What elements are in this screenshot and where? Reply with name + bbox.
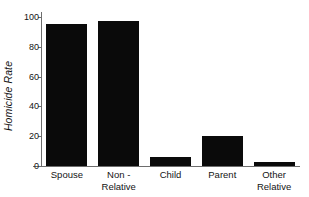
y-tick-label: 20 xyxy=(29,132,39,141)
x-label-line: Relative xyxy=(248,181,300,193)
x-axis-line xyxy=(33,166,300,167)
homicide-rate-bar-chart: Homicide Rate 020406080100 SpouseNon -Re… xyxy=(0,0,309,197)
x-label-child: Child xyxy=(145,169,197,181)
bars-layer xyxy=(41,8,300,166)
bar-other-relative xyxy=(254,162,295,166)
y-tick-label: 100 xyxy=(24,13,39,22)
y-tick-label: 0 xyxy=(34,162,39,171)
bar-non-relative xyxy=(98,21,139,166)
x-label-non-relative: Non -Relative xyxy=(93,169,145,192)
x-label-line: Child xyxy=(160,169,182,180)
y-axis-title-text: Homicide Rate xyxy=(2,61,14,131)
y-axis-title: Homicide Rate xyxy=(0,46,16,146)
x-label-other-relative: OtherRelative xyxy=(248,169,300,192)
bar-parent xyxy=(202,136,243,166)
x-label-line: Relative xyxy=(93,181,145,193)
x-label-parent: Parent xyxy=(196,169,248,181)
x-axis-labels: SpouseNon -RelativeChildParentOtherRelat… xyxy=(41,169,300,197)
x-label-line: Spouse xyxy=(51,169,83,180)
x-label-line: Other xyxy=(262,169,286,180)
x-label-spouse: Spouse xyxy=(41,169,93,181)
y-tick-label: 80 xyxy=(29,42,39,51)
y-tick-label: 40 xyxy=(29,102,39,111)
x-label-line: Non - xyxy=(107,169,130,180)
bar-child xyxy=(150,157,191,166)
x-label-line: Parent xyxy=(208,169,236,180)
y-tick-label: 60 xyxy=(29,72,39,81)
bar-spouse xyxy=(46,24,87,166)
